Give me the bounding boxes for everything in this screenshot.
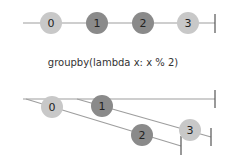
operator-label: groupby(lambda x: x % 2) xyxy=(48,57,178,68)
source-marble-2: 2 xyxy=(132,12,154,34)
marble-label: 2 xyxy=(139,129,146,142)
marble-label: 3 xyxy=(187,124,194,137)
group-even-marble-2: 2 xyxy=(131,124,153,146)
source-marble-1: 1 xyxy=(86,12,108,34)
source-timeline: 0 1 2 3 xyxy=(23,12,215,34)
marble-label: 1 xyxy=(94,17,101,30)
source-marble-3: 3 xyxy=(177,12,199,34)
result-timeline: 0 2 1 3 xyxy=(23,90,215,155)
marble-label: 0 xyxy=(49,101,56,114)
group-even-marble-0: 0 xyxy=(41,96,63,118)
marble-label: 1 xyxy=(99,100,106,113)
marble-label: 2 xyxy=(140,17,147,30)
marble-diagram: 0 1 2 3 groupby(lambda x: x % 2) 0 xyxy=(0,0,229,161)
group-odd-marble-3: 3 xyxy=(179,119,201,141)
source-marble-0: 0 xyxy=(40,12,62,34)
group-odd-marble-1: 1 xyxy=(91,95,113,117)
marble-label: 3 xyxy=(185,17,192,30)
marble-label: 0 xyxy=(48,17,55,30)
